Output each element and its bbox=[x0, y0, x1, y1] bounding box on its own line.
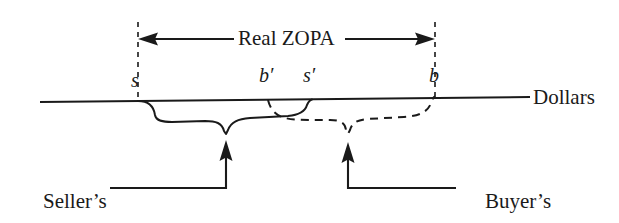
real-zopa-label: Real ZOPA bbox=[238, 27, 335, 51]
point-label-s-prime: s′ bbox=[303, 64, 315, 86]
buyer-exaggeration-note-line1: Buyer’s bbox=[485, 189, 551, 213]
zopa-left-arrow bbox=[138, 33, 234, 46]
seller-exaggeration-note: Seller’s exaggeration bbox=[22, 166, 130, 223]
buyer-leader-arrow bbox=[342, 142, 457, 188]
point-label-b-prime: b′ bbox=[259, 64, 273, 86]
zopa-right-arrow bbox=[345, 33, 435, 46]
zopa-diagram: Real ZOPA s b′ s′ b Dollars Seller’s exa… bbox=[0, 0, 619, 223]
point-label-s: s bbox=[131, 69, 139, 91]
seller-exaggeration-note-line1: Seller’s bbox=[43, 189, 107, 213]
seller-exaggeration-brace bbox=[138, 100, 312, 135]
point-label-b: b bbox=[429, 64, 439, 86]
dollars-axis-label: Dollars bbox=[533, 86, 595, 110]
dollars-axis-line bbox=[40, 97, 530, 102]
buyer-exaggeration-note: Buyer’s exaggeration bbox=[464, 166, 572, 223]
